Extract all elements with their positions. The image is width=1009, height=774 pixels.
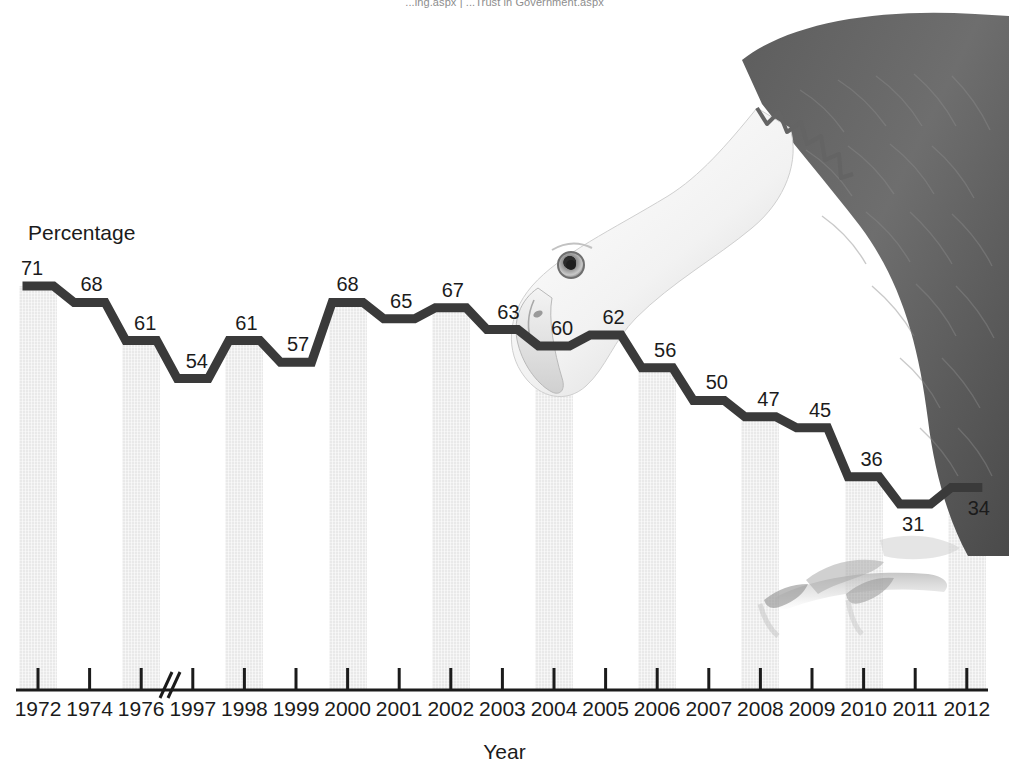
x-axis-tick-label: 2001 [376, 698, 423, 720]
x-axis-tick-label: 2011 [893, 698, 938, 720]
x-axis-tick-label: 2012 [943, 698, 990, 720]
x-axis-tick-label: 2000 [324, 698, 371, 720]
x-axis-tick-label: 1976 [118, 698, 165, 720]
x-axis-tick-label: 2008 [737, 698, 784, 720]
x-axis-tick-label: 1999 [273, 698, 320, 720]
figure-root: ...ing.aspx | ...Trust in Government.asp… [0, 0, 1009, 774]
axis-break-mark [160, 672, 180, 698]
x-axis-tick-label: 1997 [169, 698, 216, 720]
x-axis-tick-label: 2007 [685, 698, 732, 720]
x-axis-tick-label: 2005 [582, 698, 629, 720]
x-axis-tick-label: 2002 [427, 698, 474, 720]
x-axis-tick-label: 2009 [789, 698, 836, 720]
x-axis-tick-label: 1972 [15, 698, 62, 720]
x-axis-tick-label: 1998 [221, 698, 268, 720]
chart-plot-area: Percentage Year 716861546157686567636062… [0, 0, 1009, 774]
chart-axis-layer: 1972197419761997199819992000200120022003… [0, 0, 1009, 774]
x-axis-tick-label: 2010 [840, 698, 887, 720]
x-axis-tick-label: 2004 [531, 698, 578, 720]
axis-svg [0, 0, 1009, 774]
x-axis-tick-label: 2006 [634, 698, 681, 720]
x-axis-tick-label: 1974 [66, 698, 113, 720]
x-axis-tick-label: 2003 [479, 698, 526, 720]
